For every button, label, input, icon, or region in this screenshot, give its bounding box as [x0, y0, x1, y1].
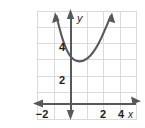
x-axis-label: x: [127, 109, 134, 120]
x-tick-label-4: 4: [118, 108, 125, 120]
multiple-choice-graph-figure: C.: [0, 0, 145, 128]
y-tick-label-2: 2: [59, 74, 65, 86]
x-tick-label-2: 2: [100, 108, 106, 120]
graph-svg: y x 4 2 −2 2 4: [0, 0, 145, 128]
x-tick-label-neg2: −2: [36, 108, 49, 120]
coordinate-plane: y x 4 2 −2 2 4: [0, 0, 145, 128]
y-tick-label-4: 4: [59, 41, 66, 53]
